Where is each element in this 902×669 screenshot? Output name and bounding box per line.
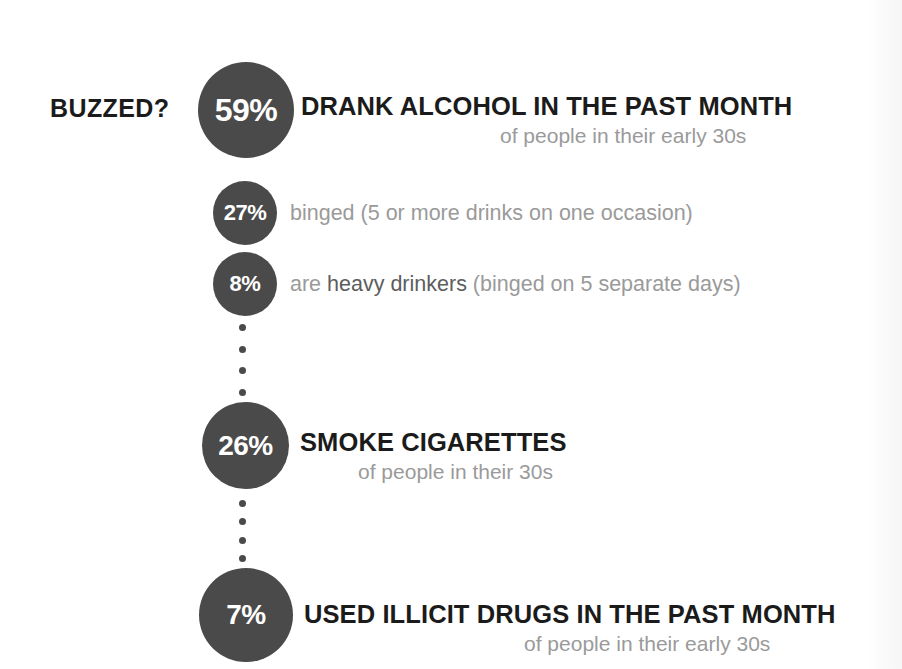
connector-dot-icon [239, 346, 246, 353]
connector-dot-icon [239, 324, 246, 331]
connector-dot-icon [239, 500, 246, 507]
stat-bubble-26: 26% [202, 402, 289, 489]
stat-headline-alcohol: DRANK ALCOHOL IN THE PAST MONTH [301, 92, 792, 121]
stat-subline-cigarettes: of people in their 30s [358, 460, 553, 484]
stat-bubble-27-value: 27% [224, 202, 267, 224]
stat-detail-heavy-drinkers-emphasis: heavy drinkers [327, 272, 467, 296]
connector-dot-icon [239, 537, 246, 544]
dotted-connector-lower [239, 500, 246, 562]
stat-bubble-8-value: 8% [230, 273, 261, 295]
stat-detail-binged-text: binged (5 or more drinks on one occasion… [290, 201, 693, 225]
connector-dot-icon [239, 367, 246, 374]
connector-dot-icon [239, 555, 246, 562]
stat-bubble-27: 27% [213, 181, 277, 245]
stat-bubble-59-value: 59% [215, 94, 278, 126]
section-label-buzzed: BUZZED? [50, 94, 169, 123]
stat-bubble-59: 59% [198, 62, 294, 158]
stat-headline-cigarettes: SMOKE CIGARETTES [300, 428, 567, 457]
stat-headline-illicit-drugs: USED ILLICIT DRUGS IN THE PAST MONTH [304, 600, 836, 629]
stat-detail-binged: binged (5 or more drinks on one occasion… [290, 201, 693, 226]
stat-detail-heavy-drinkers-prefix: are [290, 272, 327, 296]
stat-subline-alcohol: of people in their early 30s [500, 124, 746, 148]
stat-bubble-7-value: 7% [226, 601, 265, 629]
stat-detail-heavy-drinkers: are heavy drinkers (binged on 5 separate… [290, 272, 741, 297]
stat-subline-illicit-drugs: of people in their early 30s [524, 632, 770, 656]
stat-bubble-26-value: 26% [218, 432, 273, 460]
connector-dot-icon [239, 518, 246, 525]
dotted-connector-upper [239, 324, 246, 396]
stat-bubble-7: 7% [199, 568, 293, 662]
stat-bubble-8: 8% [213, 252, 277, 316]
connector-dot-icon [239, 389, 246, 396]
infographic-canvas: BUZZED? 59% DRANK ALCOHOL IN THE PAST MO… [0, 0, 902, 669]
stat-detail-heavy-drinkers-suffix: (binged on 5 separate days) [467, 272, 741, 296]
